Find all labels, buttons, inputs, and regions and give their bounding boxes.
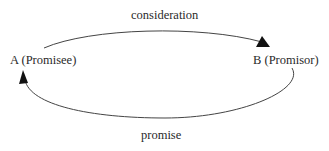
arrowhead-to-a-icon — [19, 70, 28, 84]
node-a-promisee: A (Promisee) — [10, 53, 76, 68]
edge-promise-arc — [25, 68, 294, 118]
arrowhead-to-b-icon — [256, 36, 270, 47]
edge-label-consideration: consideration — [131, 8, 198, 23]
edge-consideration-arc — [44, 31, 262, 48]
node-b-promisor: B (Promisor) — [253, 53, 319, 68]
edge-label-promise: promise — [141, 128, 181, 143]
